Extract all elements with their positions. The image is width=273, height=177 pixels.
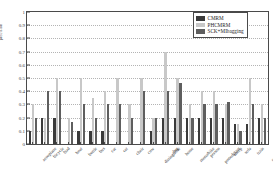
y-tick-label: 0: [23, 142, 26, 147]
x-tick-mark: [201, 142, 202, 145]
bar-group: [162, 12, 170, 144]
bar: [143, 91, 145, 144]
bar-group: [174, 12, 182, 144]
bar: [167, 91, 169, 144]
bar-group: [258, 12, 266, 144]
bar-group: [89, 12, 97, 144]
bar-chart-figure: precision 00.10.20.30.40.50.60.70.80.91 …: [0, 0, 273, 177]
x-tick-mark: [177, 142, 178, 145]
x-tick-mark: [189, 142, 190, 145]
bar: [155, 118, 157, 144]
legend-swatch: [196, 16, 205, 21]
x-tick-mark: [104, 142, 105, 145]
bar: [47, 91, 49, 144]
x-tick-mark: [237, 142, 238, 145]
y-tick-label: 0.9: [19, 23, 25, 28]
y-tick-label: 0.3: [19, 102, 25, 107]
bar: [131, 118, 133, 144]
bar: [203, 104, 205, 144]
x-tick-label: boat: [74, 146, 83, 155]
bar: [35, 118, 37, 144]
x-tick-mark: [32, 142, 33, 145]
bar: [191, 118, 193, 144]
bar-group: [126, 12, 134, 144]
x-tick-mark: [153, 142, 154, 145]
x-tick-mark: [80, 142, 81, 145]
x-tick-mark: [213, 142, 214, 145]
x-tick-label: cat: [122, 146, 129, 153]
y-tick-label: 0.6: [19, 62, 25, 67]
bar: [59, 91, 61, 144]
legend-item: SCK+MIbagging: [196, 28, 244, 35]
bar-group: [138, 12, 146, 144]
x-tick-label: bird: [62, 146, 71, 155]
legend: CMRMPHCMRMSCK+MIbagging: [193, 12, 248, 38]
x-tick-label: chair: [135, 146, 145, 156]
x-tick-label: car: [110, 146, 118, 154]
y-tick-label: 0.4: [19, 89, 25, 94]
bar: [119, 104, 121, 144]
x-axis-tick-labels: aeroplanebicyclebirdboatbottlebuscarcatc…: [26, 146, 269, 177]
y-tick-label: 0.1: [19, 128, 25, 133]
x-tick-label: tvmonitor: [270, 146, 273, 162]
x-tick-mark: [261, 142, 262, 145]
x-tick-mark: [44, 142, 45, 145]
x-tick-mark: [92, 142, 93, 145]
y-axis-label: precision: [0, 2, 3, 62]
x-tick-mark: [140, 142, 141, 145]
y-tick-label: 0.8: [19, 36, 25, 41]
y-tick-label: 0.5: [19, 76, 25, 81]
bar-group: [41, 12, 49, 144]
x-tick-label: bottle: [87, 146, 98, 157]
y-tick-label: 0.7: [19, 49, 25, 54]
x-tick-mark: [128, 142, 129, 145]
bar: [179, 83, 181, 144]
bar-group: [53, 12, 61, 144]
bar: [83, 104, 85, 144]
x-tick-mark: [116, 142, 117, 145]
bar: [71, 122, 73, 144]
x-tick-label: horse: [184, 146, 195, 157]
bar: [227, 102, 229, 144]
bar-group: [29, 12, 37, 144]
x-tick-label: sheep: [232, 146, 243, 157]
x-tick-mark: [68, 142, 69, 145]
bar: [95, 118, 97, 144]
legend-swatch: [196, 29, 205, 34]
x-tick-label: sofa: [243, 146, 252, 155]
y-tick-label: 0.2: [19, 115, 25, 120]
bar: [252, 104, 254, 144]
bar-group: [65, 12, 73, 144]
bar-group: [101, 12, 109, 144]
x-tick-label: cow: [147, 146, 156, 155]
bar-group: [77, 12, 85, 144]
bar: [264, 118, 266, 144]
bar-group: [150, 12, 158, 144]
legend-swatch: [196, 23, 205, 28]
x-tick-mark: [249, 142, 250, 145]
bar: [107, 104, 109, 144]
x-tick-mark: [165, 142, 166, 145]
x-tick-label: train: [255, 146, 264, 155]
bar: [239, 131, 241, 144]
x-tick-mark: [56, 142, 57, 145]
x-tick-mark: [225, 142, 226, 145]
y-tick-label: 1: [23, 10, 26, 15]
bar-group: [113, 12, 121, 144]
bar: [215, 104, 217, 144]
legend-label: SCK+MIbagging: [208, 28, 244, 35]
x-tick-label: bus: [98, 146, 106, 154]
